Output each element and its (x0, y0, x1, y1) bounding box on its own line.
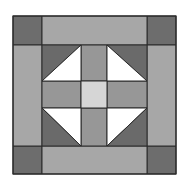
border-left (13, 45, 42, 146)
center-square (81, 81, 107, 108)
corner-top-right (147, 16, 176, 45)
corner-bottom-right (147, 146, 176, 174)
cross-left (42, 81, 81, 108)
border-bottom (42, 146, 147, 174)
border-right (147, 45, 176, 146)
corner-top-left (13, 16, 42, 45)
cross-right (107, 81, 147, 108)
corner-bottom-left (13, 146, 42, 174)
quilt-block (0, 0, 186, 187)
border-top (42, 16, 147, 45)
cross-top (81, 45, 107, 81)
cross-bottom (81, 108, 107, 146)
patch-layer (13, 16, 176, 174)
